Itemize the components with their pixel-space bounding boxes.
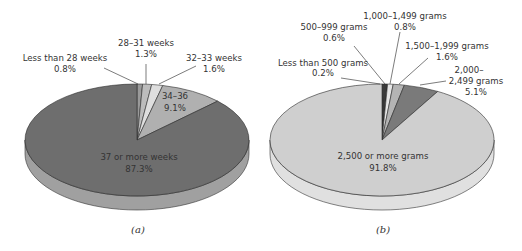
label-b3-value: 1.6% (436, 52, 458, 62)
label-b5-name: 2,500 or more grams (338, 151, 429, 161)
label-a3-value: 9.1% (164, 103, 186, 113)
label-a3-name: 34–36 (162, 91, 188, 101)
pie-chart-b (270, 84, 494, 210)
label-a0-name: Less than 28 weeks (23, 53, 108, 63)
label-a2-name: 32–33 weeks (186, 53, 242, 63)
label-b1-name: 500–999 grams (301, 22, 368, 32)
caption-b: (b) (376, 224, 390, 235)
figure: Less than 28 weeks 0.8% 28–31 weeks 1.3%… (0, 0, 522, 251)
label-b0-value: 0.2% (312, 68, 334, 78)
label-a2-value: 1.6% (203, 64, 225, 74)
label-a4-value: 87.3% (125, 164, 152, 174)
label-b5-value: 91.8% (369, 163, 396, 173)
leader-line-b0 (341, 78, 380, 84)
caption-a: (a) (131, 224, 145, 235)
leader-line-a0 (104, 68, 138, 84)
leader-line-b3 (399, 58, 428, 84)
leader-line-b4 (420, 81, 446, 85)
label-a0-value: 0.8% (54, 64, 76, 74)
label-b3-name: 1,500–1,999 grams (405, 41, 489, 51)
label-b0-name: Less than 500 grams (278, 58, 369, 68)
label-b2-value: 0.8% (394, 22, 416, 32)
leader-line-a2 (159, 66, 196, 84)
label-a1-value: 1.3% (135, 49, 157, 59)
label-b2-name: 1,000–1,499 grams (363, 11, 447, 21)
label-b4-value: 5.1% (465, 87, 487, 97)
pie-slice-5 (270, 84, 494, 196)
label-a4-name: 37 or more weeks (100, 152, 178, 162)
label-b4-name-2: 2,499 grams (449, 76, 504, 86)
label-b1-value: 0.6% (323, 33, 345, 43)
pie-chart-a (25, 84, 249, 210)
leader-line-b2 (390, 32, 400, 84)
label-b4-name-1: 2,000– (455, 65, 484, 75)
label-a1-name: 28–31 weeks (118, 38, 174, 48)
